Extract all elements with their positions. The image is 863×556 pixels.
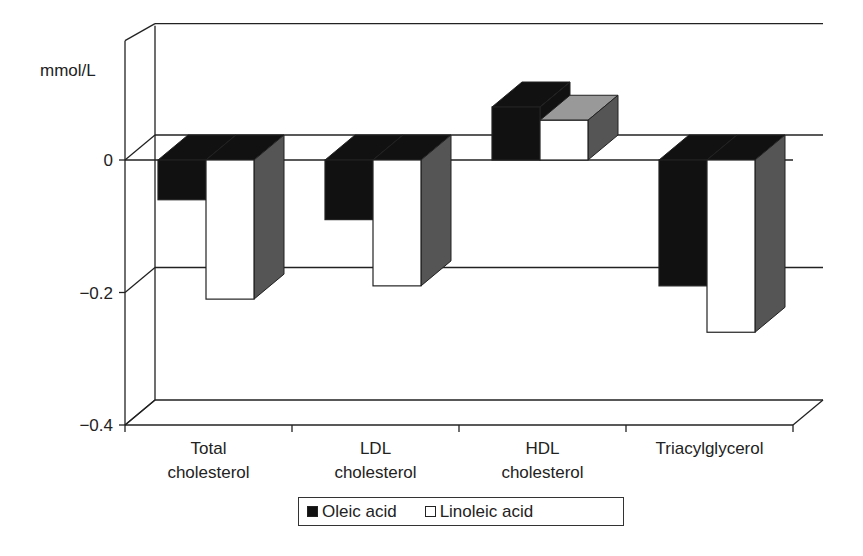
x-tick-label: cholesterol bbox=[167, 463, 249, 482]
legend-item-oleic: Oleic acid bbox=[307, 502, 397, 522]
bar-linoleic-side bbox=[254, 135, 284, 299]
bar-chart: 0−0.2−0.4mmol/LTotalcholesterolLDLcholes… bbox=[0, 0, 863, 556]
x-tick-label: cholesterol bbox=[334, 463, 416, 482]
bar-linoleic bbox=[707, 160, 755, 332]
gridline-side bbox=[125, 135, 155, 160]
x-tick-label: Total bbox=[191, 439, 227, 458]
bar-linoleic bbox=[373, 160, 421, 286]
bar-oleic bbox=[659, 160, 707, 286]
gridline-side bbox=[125, 400, 155, 425]
bar-linoleic bbox=[540, 120, 588, 160]
x-tick-label: cholesterol bbox=[501, 463, 583, 482]
gridline-side bbox=[125, 268, 155, 293]
y-axis-label: mmol/L bbox=[40, 61, 96, 80]
y-tick-label: −0.4 bbox=[79, 416, 113, 435]
bar-linoleic bbox=[206, 160, 254, 299]
legend-swatch-linoleic bbox=[425, 506, 436, 517]
x-tick-label: Triacylglycerol bbox=[655, 439, 763, 458]
floor-right bbox=[793, 400, 823, 425]
legend-label-linoleic: Linoleic acid bbox=[440, 502, 534, 522]
bar-oleic bbox=[492, 107, 540, 160]
bar-oleic bbox=[325, 160, 373, 220]
legend-item-linoleic: Linoleic acid bbox=[425, 502, 534, 522]
bar-oleic bbox=[158, 160, 206, 200]
side-wall-top bbox=[125, 24, 155, 41]
x-tick-label: LDL bbox=[360, 439, 391, 458]
bar-linoleic-side bbox=[755, 135, 785, 332]
x-tick-label: HDL bbox=[525, 439, 559, 458]
bar-linoleic-side bbox=[421, 135, 451, 286]
legend-label-oleic: Oleic acid bbox=[322, 502, 397, 522]
y-tick-label: 0 bbox=[104, 151, 113, 170]
legend-swatch-oleic bbox=[307, 506, 318, 517]
y-tick-label: −0.2 bbox=[79, 284, 113, 303]
legend: Oleic acid Linoleic acid bbox=[298, 497, 624, 526]
